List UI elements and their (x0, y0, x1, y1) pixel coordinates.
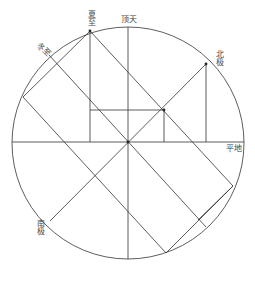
label-zenith: 顶天 (121, 16, 137, 24)
label-south-pole: 南极 (35, 219, 43, 235)
left-parallel (23, 97, 166, 253)
lower-short (198, 186, 233, 220)
label-summer-solstice: 夏至 (86, 10, 94, 26)
summer-diagonal (90, 31, 233, 186)
label-north-pole: 北极 (214, 50, 222, 66)
summer-left-chord (23, 31, 90, 97)
label-horizon: 平地 (226, 145, 242, 153)
